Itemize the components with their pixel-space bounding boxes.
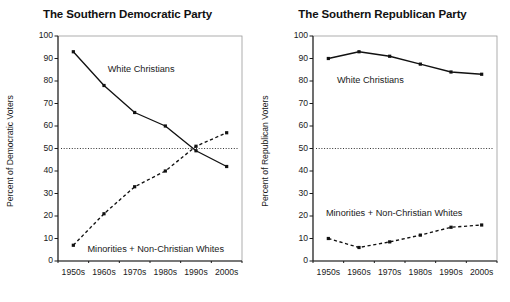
data-point-marker	[388, 55, 391, 58]
x-axis-tick-label: 2000s	[462, 267, 502, 277]
y-axis-tick-label: 90	[27, 53, 53, 63]
y-axis-tick-label: 70	[27, 98, 53, 108]
data-point-marker	[480, 223, 483, 226]
y-axis-tick-label: 30	[282, 188, 308, 198]
y-axis-tick-label: 80	[27, 75, 53, 85]
y-axis-tick-label: 60	[282, 120, 308, 130]
y-axis-tick-label: 30	[27, 188, 53, 198]
y-axis-tick-label: 20	[282, 210, 308, 220]
data-point-marker	[480, 73, 483, 76]
y-axis-tick-label: 100	[282, 30, 308, 40]
data-point-marker	[419, 234, 422, 237]
y-axis-tick-label: 40	[282, 165, 308, 175]
chart-svg-republican	[295, 33, 500, 263]
plot-area-republican: 01020304050607080901001950s1960s1970s198…	[295, 33, 500, 263]
y-axis-tick-label: 0	[282, 255, 308, 265]
series-line-minorities-non-christian-whites	[73, 133, 226, 246]
data-point-marker	[102, 84, 105, 87]
data-point-marker	[194, 145, 197, 148]
x-axis-tick-label: 2000s	[207, 267, 247, 277]
data-point-marker	[449, 226, 452, 229]
data-point-marker	[225, 131, 228, 134]
data-point-marker	[357, 246, 360, 249]
y-axis-tick-label: 100	[27, 30, 53, 40]
y-axis-tick-label: 70	[282, 98, 308, 108]
y-axis-tick-label: 80	[282, 75, 308, 85]
y-axis-label-democratic: Percent of Democratic Voters	[2, 46, 18, 256]
series-line-white-christians	[328, 52, 481, 75]
data-point-marker	[133, 185, 136, 188]
data-point-marker	[164, 169, 167, 172]
data-point-marker	[327, 237, 330, 240]
data-point-marker	[72, 50, 75, 53]
chart-panel-democratic: The Southern Democratic Party Percent of…	[0, 0, 255, 302]
series-annotation-minorities-non-christian-whites: Minorities + Non-Christian Whites	[326, 208, 463, 218]
y-axis-label-republican: Percent of Republican Voters	[257, 46, 273, 256]
data-point-marker	[327, 57, 330, 60]
data-point-marker	[194, 149, 197, 152]
chart-title-democratic: The Southern Democratic Party	[0, 8, 255, 20]
y-axis-tick-label: 0	[27, 255, 53, 265]
y-axis-tick-label: 40	[27, 165, 53, 175]
y-axis-tick-label: 50	[282, 143, 308, 153]
data-point-marker	[164, 124, 167, 127]
y-axis-tick-label: 90	[282, 53, 308, 63]
data-point-marker	[102, 212, 105, 215]
data-point-marker	[357, 50, 360, 53]
data-point-marker	[225, 165, 228, 168]
data-point-marker	[419, 63, 422, 66]
series-line-minorities-non-christian-whites	[328, 225, 481, 248]
y-axis-tick-label: 10	[27, 233, 53, 243]
y-axis-tick-label: 10	[282, 233, 308, 243]
chart-panel-republican: The Southern Republican Party Percent of…	[255, 0, 510, 302]
data-point-marker	[133, 111, 136, 114]
series-annotation-minorities-non-christian-whites: Minorities + Non-Christian Whites	[87, 244, 224, 254]
series-annotation-white-christians: White Christians	[108, 64, 175, 74]
plot-area-democratic: 01020304050607080901001950s1960s1970s198…	[40, 33, 245, 263]
series-annotation-white-christians: White Christians	[337, 75, 404, 85]
data-point-marker	[449, 70, 452, 73]
chart-title-republican: The Southern Republican Party	[255, 8, 510, 20]
figure-canvas: The Southern Democratic Party Percent of…	[0, 0, 510, 302]
y-axis-tick-label: 20	[27, 210, 53, 220]
data-point-marker	[388, 240, 391, 243]
y-axis-tick-label: 60	[27, 120, 53, 130]
data-point-marker	[72, 244, 75, 247]
y-axis-tick-label: 50	[27, 143, 53, 153]
